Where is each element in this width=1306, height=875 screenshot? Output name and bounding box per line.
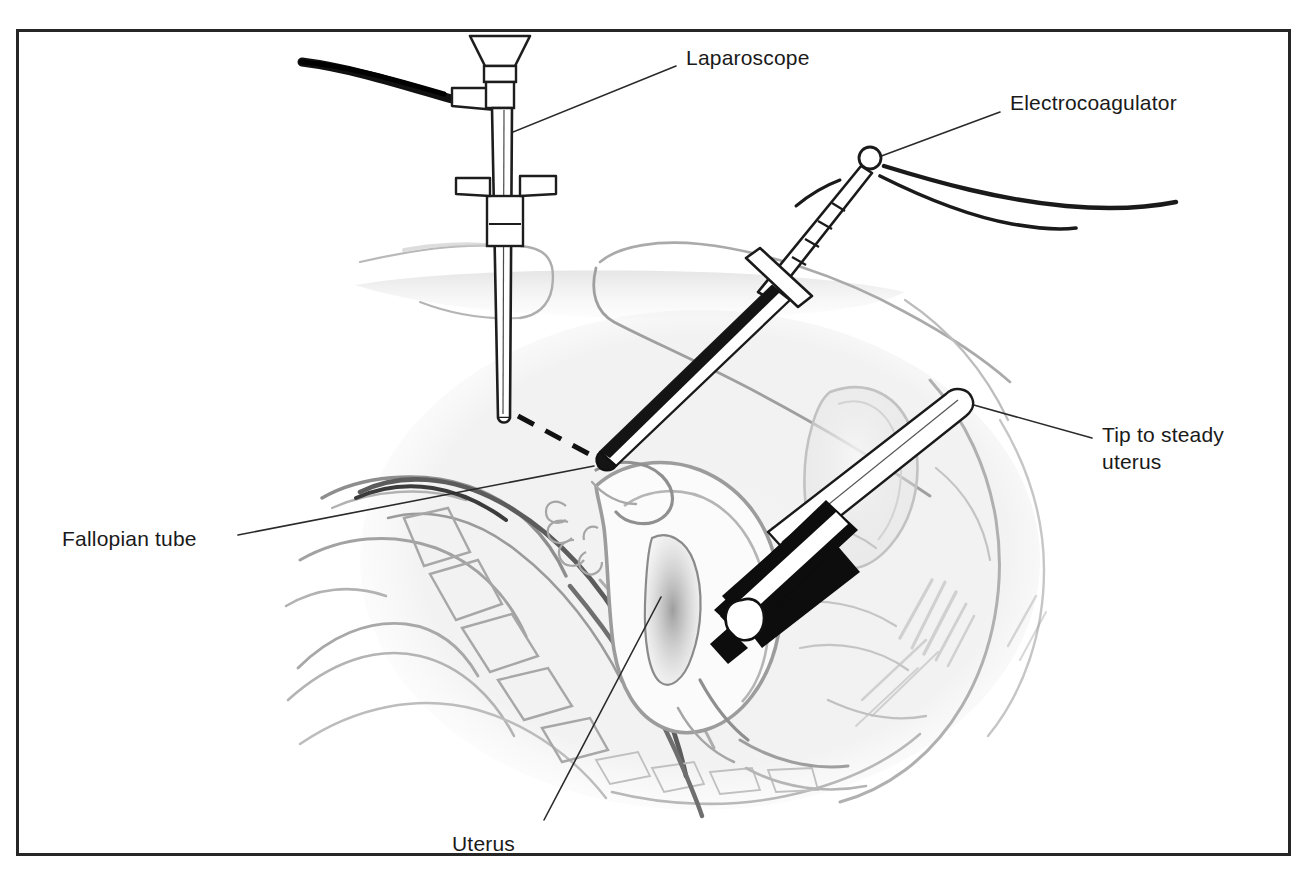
sleeve-wing-right: [520, 176, 556, 196]
label-uterus: Uterus: [452, 830, 515, 857]
label-electrocoagulator: Electrocoagulator: [1010, 89, 1177, 116]
illustration-figure: Laparoscope Electrocoagulator Tip to ste…: [0, 0, 1306, 875]
label-fallopian-tube: Fallopian tube: [62, 525, 197, 552]
sleeve-wing-left: [456, 178, 490, 196]
label-tip-to-steady-uterus-line2: uterus: [1102, 448, 1162, 475]
label-laparoscope: Laparoscope: [686, 44, 810, 71]
label-tip-to-steady-uterus-line1: Tip to steady: [1102, 421, 1224, 448]
